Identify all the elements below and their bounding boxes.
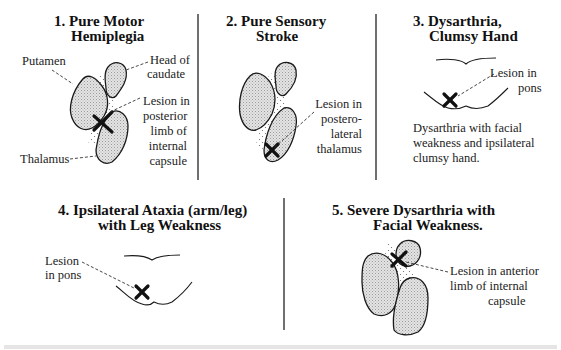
label-lesion-2-line1: Lesion in xyxy=(310,97,362,111)
pons-upper-contour xyxy=(436,58,496,64)
panel-4-title-line2: with Leg Weakness xyxy=(98,217,221,233)
panel-1-title-line2: Hemiplegia xyxy=(71,28,144,44)
pons-lower-contour xyxy=(116,282,192,305)
panel-3-description-line2: weakness and ipsilateral xyxy=(413,136,534,151)
leader-thalamus xyxy=(70,156,96,159)
label-head-of-caudate-2: caudate xyxy=(147,67,185,81)
label-lesion-5-line1: Lesion in anterior xyxy=(450,264,539,278)
panel-5-title-line2: Facial Weakness. xyxy=(373,217,483,233)
label-head-of-caudate-1: Head of xyxy=(150,53,190,67)
leader-lesion-4 xyxy=(82,262,134,288)
leader-lesion-3 xyxy=(458,74,494,96)
leader-caudate xyxy=(126,62,148,70)
label-putamen: Putamen xyxy=(22,54,66,68)
label-lesion-4-line2: in pons xyxy=(45,268,81,282)
panel-4-graphic xyxy=(82,255,192,305)
panel-3-title-line2: Clumsy Hand xyxy=(429,28,518,44)
head-of-caudate-shape xyxy=(275,63,296,96)
pons-upper-contour xyxy=(124,255,180,260)
label-lesion-2-line3: lateral xyxy=(310,127,362,141)
leader-lesion-5 xyxy=(406,262,448,272)
panel-2-title-line2: Stroke xyxy=(256,28,298,44)
panel-2-title-line1: 2. Pure Sensory xyxy=(226,13,326,29)
label-lesion-1-line1: Lesion in xyxy=(143,94,187,108)
label-lesion-3-line1: Lesion in xyxy=(490,66,537,80)
label-lesion-2-line4: thalamus xyxy=(310,142,362,156)
lacunar-syndromes-diagram: 1. Pure Motor Hemiplegia Putamen Head of… xyxy=(0,0,561,350)
label-lesion-5-line2: limb of internal xyxy=(450,279,528,293)
label-lesion-4-line1: Lesion xyxy=(45,254,79,268)
panel-3-title-line1: 3. Dysarthria, xyxy=(413,13,502,29)
label-lesion-1-line5: capsule xyxy=(143,154,187,168)
diagram-graphics xyxy=(0,0,561,350)
leader-putamen xyxy=(52,70,73,84)
label-thalamus: Thalamus xyxy=(20,152,69,166)
label-lesion-5-line3: capsule xyxy=(488,294,525,308)
label-lesion-1-line2: posterior xyxy=(143,109,187,123)
panel-1-graphic xyxy=(52,62,148,163)
label-lesion-2-line2: postero- xyxy=(310,112,362,126)
lesion-x-mark xyxy=(136,286,148,298)
panel-1-title-line1: 1. Pure Motor xyxy=(54,13,144,29)
label-lesion-1-line3: limb of xyxy=(143,124,187,138)
putamen-shape xyxy=(362,253,399,315)
lesion-x-mark xyxy=(444,94,456,106)
panel-3-description-line1: Dysarthria with facial xyxy=(413,121,522,136)
panel-2-graphic xyxy=(239,63,314,162)
head-of-caudate-shape xyxy=(105,63,126,98)
panel-4-title-line1: 4. Ipsilateral Ataxia (arm/leg) xyxy=(58,202,247,218)
panel-3-description-line3: clumsy hand. xyxy=(413,151,480,166)
panel-5-graphic xyxy=(362,241,448,335)
label-lesion-1-line4: internal xyxy=(143,139,187,153)
panel-5-title-line1: 5. Severe Dysarthria with xyxy=(332,202,495,218)
cropped-caption-strip xyxy=(4,345,557,349)
label-lesion-3-line2: pons xyxy=(518,81,542,95)
